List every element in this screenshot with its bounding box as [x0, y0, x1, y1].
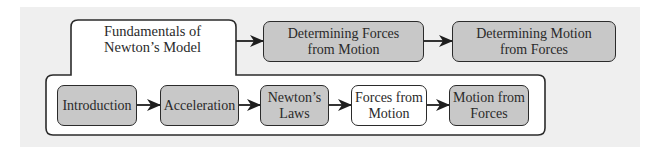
node-introduction: Introduction	[57, 85, 137, 126]
group-title: Fundamentals of Newton’s Model	[104, 23, 201, 55]
node-forces-from-motion: Forces from Motion	[351, 85, 427, 126]
node-determining-forces-from-motion: Determining Forces from Motion	[263, 21, 424, 62]
node-determining-motion-from-forces: Determining Motion from Forces	[452, 21, 616, 62]
node-acceleration: Acceleration	[160, 85, 239, 126]
node-newtons-laws: Newton’s Laws	[260, 85, 329, 126]
node-motion-from-forces: Motion from Forces	[449, 85, 529, 126]
